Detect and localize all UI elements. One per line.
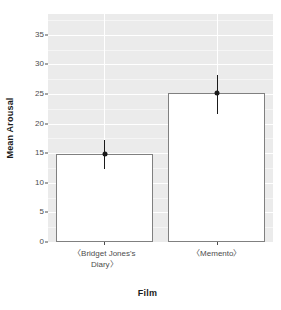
y-axis-tick-label: 10 (35, 179, 44, 187)
gridline-major (48, 64, 273, 65)
x-axis-tick-label-line: 〈Memento〉 (162, 248, 272, 259)
y-axis-tick-label: 30 (35, 60, 44, 68)
y-axis-tick-label: 5 (40, 208, 44, 216)
plot-panel (48, 14, 273, 242)
x-axis-tick-label: 〈Bridget Jones'sDiary〉 (49, 248, 159, 270)
bar-chart: Mean Arousal 05101520253035 〈Bridget Jon… (0, 0, 281, 310)
y-axis-tick-group: 05101520253035 (18, 0, 48, 310)
mean-point (102, 152, 107, 157)
bar (168, 93, 265, 242)
gridline-major (48, 35, 273, 36)
y-axis-tick-label: 0 (40, 238, 44, 246)
y-axis-tick-label: 15 (35, 149, 44, 157)
x-axis-tick-group: 〈Bridget Jones'sDiary〉〈Memento〉 (48, 242, 273, 288)
gridline-minor (48, 20, 273, 21)
y-axis-tick-label: 35 (35, 31, 44, 39)
y-axis-tick-label: 25 (35, 90, 44, 98)
y-axis-tick-label: 20 (35, 120, 44, 128)
x-axis-title: Film (20, 288, 275, 298)
x-axis-tick-label-line: Diary〉 (49, 259, 159, 270)
y-axis-title: Mean Arousal (0, 0, 20, 255)
x-axis-tick-label: 〈Memento〉 (162, 248, 272, 259)
gridline-minor (48, 50, 273, 51)
mean-point (215, 90, 220, 95)
x-axis-tick-label-line: 〈Bridget Jones's (49, 248, 159, 259)
gridline-minor (48, 79, 273, 80)
x-axis-tick-mark (217, 242, 218, 245)
x-axis-tick-mark (104, 242, 105, 245)
y-axis-title-text: Mean Arousal (5, 97, 15, 158)
